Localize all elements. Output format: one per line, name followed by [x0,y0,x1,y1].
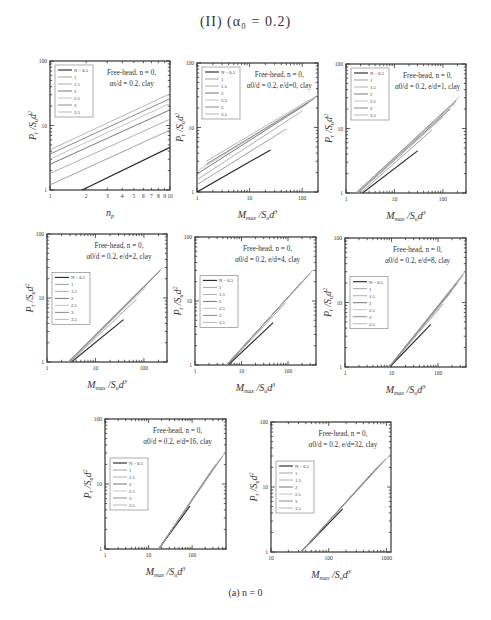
x-axis-label: Mmax /Sud3 [310,569,351,581]
series-line-3.5 [389,271,466,367]
chart-annotation: Free-head, n = 0, [153,427,202,435]
legend-label: 2.5 [129,489,135,494]
x-tick-label: 10 [389,370,395,376]
y-tick-label: 10 [187,298,193,304]
legend: N = 0.511.522.533.5 [110,458,148,510]
chart-panel-3: 110100110100Mmax /Sud3Pt /Sud2Free-head,… [316,56,476,229]
legend-label: 1.5 [74,82,80,87]
chart-annotation: α0/d = 0.2, e/d=1, clay [395,83,461,91]
x-tick-label: 100 [325,555,334,561]
data-series [226,270,313,365]
y-tick-label: 100 [335,61,344,67]
chart-annotation: α0/d = 0.2, e/d=4, clay [235,256,301,264]
legend-label: 1.5 [295,478,301,483]
legend-label: 3.5 [129,503,135,508]
chart-annotation: α0/d = 0.2, e/d=16, clay [143,438,212,446]
legend: N = 0.511.522.533.5 [276,461,314,513]
legend-label: N = 0.5 [71,275,86,280]
chart-annotation: Free-head, n = 0, [255,71,304,79]
x-tick-label: 100 [439,196,448,202]
legend-label: 3.5 [221,112,227,117]
chart-annotation: α0/d = 0.2, e/d=8, clay [385,257,451,265]
series-line-1.5 [358,117,443,193]
chart-annotation: Free-head, n = 0, [319,430,368,438]
chart-annotation: α0/d = 0.2, e/d=0, clay [247,82,313,90]
chart-annotation: Free-head, n = 0, [403,72,452,80]
data-series [389,271,466,367]
series-line-3.5 [226,270,313,365]
y-tick-label: 100 [186,60,195,66]
x-axis-label: Mmax /Sud3 [385,210,426,222]
x-tick-label: 100 [434,370,443,376]
chart-annotation: α0/d = 0.2, e/d=32, clay [309,441,378,449]
x-tick-label: 100 [284,368,293,374]
legend-label: N = 0.5 [219,278,234,283]
chart-panel-5: 110100110100Mmax /Sud3Pt /Sud2Free-head,… [165,229,326,401]
legend: N = 0.511.522.533.5 [52,272,90,324]
legend-label: 1.5 [369,294,375,299]
x-axis-label: Mmax /Sud3 [385,384,426,396]
chart-annotation: Free-head, n = 0, [243,245,292,253]
chart-annotation: αs/d = 0.2, clay [109,80,154,88]
chart-annotation: Free-head, n = 0, [95,242,144,250]
x-tick-label: 100 [298,195,307,201]
series-line-0.5 [390,324,431,367]
legend-label: 1.5 [370,85,376,90]
x-tick-label: 9 [163,193,166,199]
x-axis-label: Mmax /Sud3 [237,209,278,221]
legend-label: N = 0.5 [221,70,236,75]
y-tick-label: 10 [263,484,269,490]
y-axis-label: Pt /Sud2 [322,288,334,318]
legend-label: N = 0.5 [74,68,89,73]
x-tick-label: 1000 [381,555,392,561]
x-tick-label: 4 [121,193,124,199]
y-tick-label: 10 [97,481,103,487]
legend-label: N = 0.5 [295,464,310,469]
y-axis-label: Pt /Sud2 [24,283,36,313]
legend-label: N = 0.5 [369,280,384,285]
x-tick-label: 5 [133,193,136,199]
x-tick-label: 8 [157,193,160,199]
y-tick-label: 1 [189,362,192,368]
legend-label: N = 0.5 [370,71,385,76]
x-tick-label: 10 [392,196,398,202]
series-line-0.5 [363,151,418,193]
y-axis-label: Pt /Sud2 [172,286,184,316]
x-axis-label: Mmax /Sud3 [145,566,186,578]
y-tick-label: 10 [338,126,344,132]
chart-panel-8: 101001000110100Mmax /Sud3Pt /Sud2Free-he… [241,414,401,588]
y-tick-label: 1 [41,359,44,365]
x-tick-label: 7 [150,193,153,199]
x-tick-label: 1 [345,196,348,202]
y-tick-label: 100 [334,235,343,241]
series-line-1 [197,129,286,185]
x-axis-label: np [106,207,114,219]
chart-panel-7: 110100110100Mmax /Sud3Pt /Sud2Free-head,… [75,411,236,585]
y-tick-label: 10 [39,295,45,301]
y-tick-label: 10 [189,125,195,131]
chart-annotation: Free-head, n = 0, [393,246,442,254]
x-axis-label: Mmax /Sud3 [86,379,127,391]
series-line-1 [361,130,433,193]
y-tick-label: 1 [191,189,194,195]
chart-annotation: Free-head, n = 0, [107,69,156,77]
data-series [159,452,226,549]
y-axis-label: Pt /Sud2 [174,113,186,143]
y-tick-label: 1 [339,364,342,370]
y-tick-label: 10 [337,300,343,306]
chart-annotation: α0/d = 0.2, e/d=2, clay [86,253,152,261]
legend-label: 3.5 [295,506,301,511]
x-tick-label: 10 [93,365,99,371]
x-axis-label: Mmax /Sud3 [235,382,276,394]
series-line-0.5 [72,320,124,362]
series-line-3.5 [159,452,226,549]
x-tick-label: 10 [268,555,274,561]
x-tick-label: 1 [196,195,199,201]
y-tick-label: 1 [265,549,268,555]
legend-label: 1.5 [71,289,77,294]
y-tick-label: 100 [39,58,48,64]
y-axis-label: Pt /Sud2 [27,111,39,141]
legend-label: 3.5 [370,113,376,118]
series-line-0.5 [82,147,170,190]
series-line-1.5 [50,119,170,173]
